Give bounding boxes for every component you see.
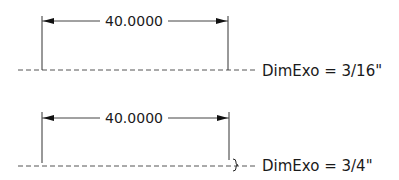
dimexo-label: DimExo = 3/4" [262,157,373,175]
arrowhead-right-icon [217,115,228,121]
arrowhead-left-icon [43,115,54,121]
dimension-value: 40.0000 [105,13,163,29]
arrowhead-right-icon [216,18,227,24]
dimexo-label: DimExo = 3/16" [262,62,382,80]
diagram-small-offset: 40.0000 DimExo = 3/16" [18,13,382,80]
arrowhead-left-icon [43,18,54,24]
dimension-diagram: 40.0000 DimExo = 3/16" 40.0000 DimExo = … [0,0,399,180]
dimension-value: 40.0000 [105,110,163,126]
diagram-large-offset: 40.0000 DimExo = 3/4" [18,110,373,175]
offset-brace-icon [233,159,238,171]
